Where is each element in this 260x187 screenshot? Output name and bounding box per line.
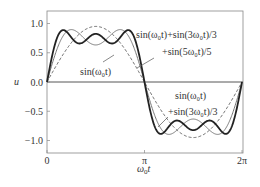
y-axis-label: u (14, 76, 19, 87)
annotation-label: +sin(5ω₀t)/5 (162, 46, 212, 58)
annotation-label: sin(ω₀t)+sin(3ω₀t)/3 (136, 29, 217, 41)
arrow-sin3 (158, 117, 168, 127)
annotation-label: sin(ω₀t) (80, 66, 111, 78)
annotation-label: +sin(3ω₀t)/3 (168, 106, 218, 118)
annotation-arrows (103, 55, 168, 127)
y-tick-label: 1.0 (31, 18, 44, 29)
x-tick-label: 0 (45, 155, 50, 166)
y-axis-ticks: 1.00.50.0−0.5−1.0 (25, 18, 50, 146)
y-tick-label: −0.5 (25, 106, 43, 117)
fourier-chart: 1.00.50.0−0.5−1.0 0π2π sin(ω₀t)+sin(3ω₀t… (0, 0, 260, 187)
x-tick-label: 2π (237, 155, 247, 166)
x-axis-ticks: 0π2π (45, 150, 248, 166)
y-tick-label: 0.0 (31, 77, 44, 88)
annotation-label: sin(ω₀t) (175, 90, 206, 102)
x-axis-label: ω0t (137, 163, 151, 176)
y-tick-label: 0.5 (31, 47, 44, 58)
arrow-sin1-left (103, 55, 114, 62)
y-tick-label: −1.0 (25, 135, 43, 146)
